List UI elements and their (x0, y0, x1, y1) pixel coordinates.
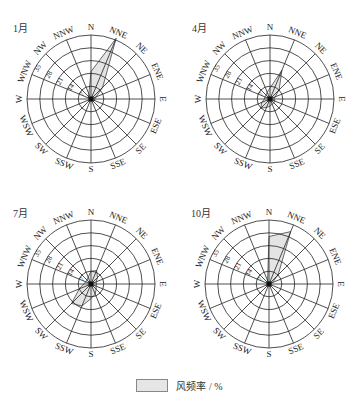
grid-spoke (269, 284, 314, 329)
direction-label-n: N (266, 207, 273, 217)
radial-tick-label: 28 (222, 254, 233, 264)
direction-label-ssw: SSW (232, 341, 253, 358)
radial-tick-label: 35 (211, 248, 222, 258)
direction-label-w: W (192, 279, 202, 288)
direction-label-e: E (336, 281, 346, 287)
direction-label-wsw: WSW (195, 299, 213, 324)
direction-label-s: S (266, 349, 271, 359)
legend-swatch (136, 379, 168, 392)
month-label: 10月 (191, 208, 211, 219)
direction-label-ese: ESE (326, 301, 342, 320)
center-marker (267, 282, 272, 287)
direction-label-nnw: NNW (230, 209, 254, 227)
legend: 风频率 / % (0, 376, 359, 394)
direction-label-wnw: WNW (193, 243, 211, 269)
direction-label-sse: SSE (287, 341, 306, 356)
radial-tick-label: 14 (244, 267, 255, 277)
grid-spoke (224, 284, 269, 329)
legend-label: 风频率 / % (176, 378, 222, 393)
wind-rose-4: NNNENEENEEESESESSESSSWSWWSWWWNWNWNNW7142… (0, 0, 359, 407)
